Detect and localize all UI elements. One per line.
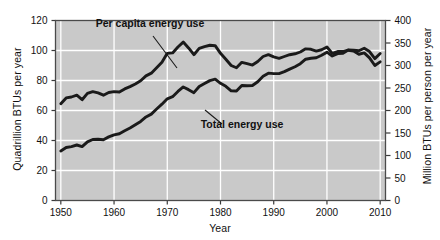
series-annotation-1: Per capita energy use	[96, 17, 205, 29]
x-tick-label: 1990	[263, 207, 286, 218]
y-tick-label-right: 250	[395, 83, 412, 94]
x-tick-label: 1950	[50, 207, 73, 218]
y-tick-label-right: 300	[395, 60, 412, 71]
chart-figure: 0204060801001200501001502002503003504001…	[0, 0, 440, 240]
y-tick-label-right: 400	[395, 15, 412, 26]
y-tick-label-left: 100	[31, 45, 48, 56]
y-tick-label-left: 20	[36, 165, 48, 176]
y-tick-label-right: 350	[395, 38, 412, 49]
x-axis-label: Year	[0, 222, 440, 234]
y-tick-label-right: 100	[395, 150, 412, 161]
y-tick-label-left: 40	[36, 135, 48, 146]
y-axis-label-left: Quadrillion BTUs per year	[11, 29, 23, 189]
y-tick-label-left: 0	[42, 195, 48, 206]
y-tick-label-left: 120	[31, 15, 48, 26]
x-tick-label: 2010	[369, 207, 392, 218]
y-axis-label-right: Million BTUs per person per year	[421, 16, 433, 196]
y-tick-label-right: 50	[395, 173, 407, 184]
x-tick-label: 1980	[209, 207, 232, 218]
x-tick-label: 1970	[156, 207, 179, 218]
x-tick-label: 2000	[316, 207, 339, 218]
y-tick-label-right: 0	[395, 195, 401, 206]
y-tick-label-right: 150	[395, 128, 412, 139]
y-tick-label-left: 60	[36, 105, 48, 116]
chart-canvas: 0204060801001200501001502002503003504001…	[0, 0, 440, 240]
x-tick-label: 1960	[103, 207, 126, 218]
series-annotation-2: Total energy use	[201, 118, 284, 130]
y-tick-label-right: 200	[395, 105, 412, 116]
y-tick-label-left: 80	[36, 75, 48, 86]
